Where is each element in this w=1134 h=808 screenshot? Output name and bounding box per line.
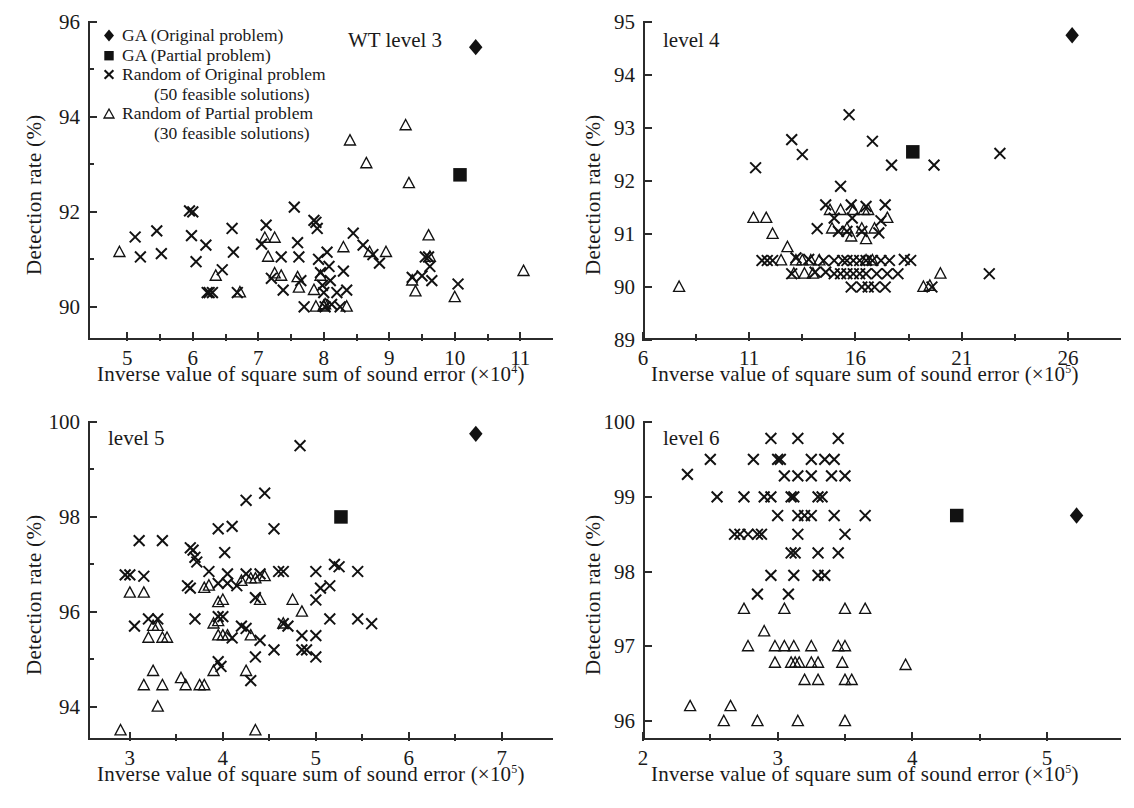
data-point-cross: [213, 523, 224, 534]
data-point-triangle: [344, 135, 355, 145]
data-point-cross: [757, 255, 768, 266]
data-point-triangle: [839, 715, 850, 725]
data-point-cross: [779, 470, 790, 481]
data-point-cross: [324, 580, 335, 591]
data-point-cross: [338, 266, 349, 277]
data-point-triangle: [269, 232, 280, 242]
data-point-cross: [219, 547, 230, 558]
data-point-triangle: [250, 725, 261, 735]
data-point-cross: [269, 523, 280, 534]
data-point-triangle: [769, 640, 780, 650]
data-point-cross: [227, 521, 238, 532]
data-point-triangle: [115, 725, 126, 735]
data-point-cross: [788, 570, 799, 581]
figure-root: Detection rate (%) Inverse value of squa…: [0, 0, 1134, 808]
data-point-triangle: [423, 230, 434, 240]
data-point-triangle: [287, 594, 298, 604]
data-point-cross: [358, 240, 369, 251]
data-point-cross: [826, 470, 837, 481]
data-point-cross: [819, 570, 830, 581]
data-point-square: [950, 509, 964, 523]
data-point-cross: [884, 255, 895, 266]
data-point-cross: [151, 225, 162, 236]
data-point-cross: [293, 252, 304, 263]
data-point-cross: [833, 548, 844, 559]
data-point-diamond: [469, 426, 482, 442]
data-point-triangle: [769, 657, 780, 667]
panel-level-6: Detection rate (%) Inverse value of squa…: [567, 404, 1134, 808]
data-point-cross: [315, 583, 326, 594]
data-point-cross: [269, 644, 280, 655]
data-point-cross: [217, 264, 228, 275]
data-point-cross: [310, 652, 321, 663]
data-point-triangle: [935, 268, 946, 278]
data-point-cross: [348, 228, 359, 239]
data-point-cross: [228, 247, 239, 258]
data-point-cross: [766, 491, 777, 502]
data-point-cross: [191, 256, 202, 267]
data-point-triangle: [738, 603, 749, 613]
data-point-diamond: [1065, 27, 1078, 43]
data-point-cross: [893, 268, 904, 279]
data-point-cross: [292, 237, 303, 248]
data-point-cross: [846, 282, 857, 293]
data-point-triangle: [799, 674, 810, 684]
data-point-cross: [869, 282, 880, 293]
data-point-cross: [245, 675, 256, 686]
data-point-cross: [806, 510, 817, 521]
data-point-cross: [261, 220, 272, 231]
scatter-layer: [567, 0, 1134, 404]
data-point-cross: [995, 148, 1006, 159]
data-point-cross: [129, 621, 140, 632]
data-point-cross: [766, 570, 777, 581]
data-point-cross: [752, 589, 763, 600]
data-point-triangle: [138, 679, 149, 689]
data-point-cross: [297, 630, 308, 641]
data-point-cross: [792, 433, 803, 444]
data-point-triangle: [761, 212, 772, 222]
data-point-cross: [743, 529, 754, 540]
data-point-cross: [299, 301, 310, 312]
data-point-cross: [762, 255, 773, 266]
data-point-cross: [750, 162, 761, 173]
data-point-triangle: [152, 701, 163, 711]
data-point-triangle: [380, 246, 391, 256]
data-point-cross: [984, 268, 995, 279]
data-point-cross: [840, 470, 851, 481]
scatter-layer: [0, 404, 567, 808]
data-point-triangle: [157, 679, 168, 689]
data-point-cross: [227, 223, 238, 234]
data-point-triangle: [241, 665, 252, 675]
panel-wt-level-3: Detection rate (%) Inverse value of squa…: [0, 0, 567, 404]
data-point-cross: [200, 240, 211, 251]
data-point-triangle: [685, 700, 696, 710]
data-point-triangle: [752, 715, 763, 725]
data-point-triangle: [860, 603, 871, 613]
data-point-cross: [882, 268, 893, 279]
data-point-cross: [748, 454, 759, 465]
data-point-triangle: [338, 241, 349, 251]
data-point-cross: [783, 589, 794, 600]
data-point-cross: [905, 255, 916, 266]
data-point-cross: [289, 202, 300, 213]
data-point-cross: [880, 199, 891, 210]
data-point-cross: [729, 529, 740, 540]
data-point-cross: [829, 454, 840, 465]
data-point-cross: [324, 614, 335, 625]
data-point-cross: [318, 287, 329, 298]
panel-level-4: Detection rate (%) Inverse value of squa…: [567, 0, 1134, 404]
data-point-cross: [352, 614, 363, 625]
data-point-cross: [352, 566, 363, 577]
data-point-cross: [213, 578, 224, 589]
data-point-cross: [712, 491, 723, 502]
data-point-cross: [786, 134, 797, 145]
data-point-cross: [374, 258, 385, 269]
data-point-cross: [190, 614, 201, 625]
data-point-triangle: [114, 246, 125, 256]
data-point-square: [453, 168, 467, 182]
data-point-cross: [322, 247, 333, 258]
data-point-cross: [341, 285, 352, 296]
data-point-cross: [130, 232, 141, 243]
data-point-cross: [833, 433, 844, 444]
data-point-cross: [367, 249, 378, 260]
